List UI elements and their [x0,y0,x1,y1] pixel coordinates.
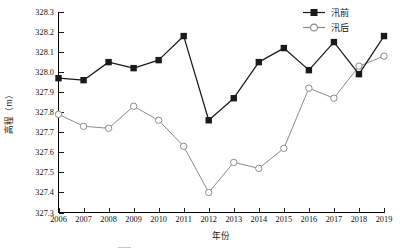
y-tick-label: 327.5 [35,168,54,177]
data-point-marker-square [130,65,136,71]
chart-figure: 327.3327.4327.5327.6327.7327.8327.9328.0… [0,0,400,250]
data-point-marker-square [281,45,287,51]
y-tick-label: 328.0 [35,68,54,77]
data-point-marker-circle [381,53,387,59]
data-point-marker-square [381,33,387,39]
data-point-marker-square [306,67,312,73]
elevation-line-chart: 327.3327.4327.5327.6327.7327.8327.9328.0… [0,0,400,250]
data-point-marker-circle [55,111,61,117]
data-point-marker-circle [231,159,237,165]
x-tick-label: 2015 [276,215,293,224]
data-point-marker-circle [155,117,161,123]
y-tick-label: 328.1 [35,48,54,57]
x-tick-label: 2010 [150,215,167,224]
x-axis-title: 年份 [212,230,230,241]
data-point-marker-circle [180,143,186,149]
data-point-marker-circle [256,165,262,171]
data-point-marker-square [155,57,161,63]
data-point-marker-square [80,77,86,83]
x-tick-label: 2006 [50,215,67,224]
data-point-marker-square [55,75,61,81]
data-point-marker-circle [80,123,86,129]
y-axis-title: 高程（m） [3,90,14,133]
x-tick-label: 2014 [251,215,268,224]
y-tick-label: 327.9 [35,88,54,97]
data-point-marker-circle [206,189,212,195]
data-point-marker-square [331,39,337,45]
data-point-marker-circle [130,103,136,109]
x-tick-label: 2016 [301,215,318,224]
legend-label-xunhou: 汛后 [331,23,349,33]
x-tick-label: 2009 [125,215,142,224]
legend-label-xunqian: 汛前 [331,7,349,18]
data-point-marker-circle [306,85,312,91]
y-tick-label: 327.6 [35,148,54,157]
y-tick-label: 327.7 [35,128,54,137]
x-tick-label: 2017 [326,215,343,224]
data-point-marker-square [180,33,186,39]
x-tick-label: 2008 [100,215,117,224]
x-tick-label: 2007 [75,215,92,224]
data-point-marker-square [356,71,362,77]
y-tick-label: 327.8 [35,108,54,117]
data-point-marker-circle [105,125,111,131]
data-point-marker-square [256,59,262,65]
data-point-marker-square [231,95,237,101]
data-point-marker-circle [331,95,337,101]
data-point-marker-circle [281,145,287,151]
x-tick-label: 2011 [176,215,192,224]
data-point-marker-square [105,59,111,65]
y-tick-label: 328.2 [35,28,54,37]
legend-marker-circle-icon [311,24,318,31]
x-tick-label: 2013 [225,215,242,224]
x-tick-label: 2012 [200,215,217,224]
x-tick-label: 2018 [351,215,368,224]
data-point-marker-circle [356,63,362,69]
legend-marker-square-icon [311,9,318,16]
y-tick-label: 327.4 [35,188,55,197]
x-tick-label: 2019 [376,215,393,224]
data-point-marker-square [206,117,212,123]
y-tick-label: 328.3 [35,8,54,17]
